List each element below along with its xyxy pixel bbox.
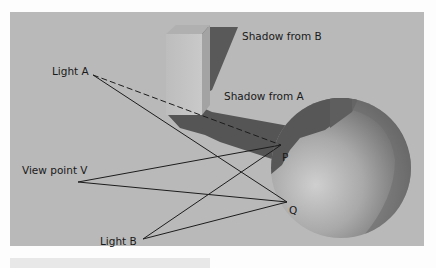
diagram-svg: Shadow from B Shadow from A Light A View…: [0, 0, 436, 268]
label-point-p: P: [282, 151, 288, 163]
label-point-q: Q: [289, 204, 297, 216]
caption-remnant: [10, 258, 210, 268]
label-light-a: Light A: [52, 65, 90, 77]
label-light-b: Light B: [100, 235, 137, 247]
label-shadow-from-a: Shadow from A: [224, 90, 305, 102]
diagram-canvas: Shadow from B Shadow from A Light A View…: [0, 0, 436, 268]
label-view-point-v: View point V: [22, 164, 88, 176]
box-front: [166, 34, 202, 115]
label-shadow-from-b: Shadow from B: [242, 30, 322, 42]
box-side: [202, 25, 210, 115]
